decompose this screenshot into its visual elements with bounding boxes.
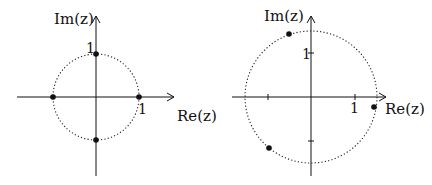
point: [266, 145, 272, 151]
real-axis-label: Re(z): [177, 107, 217, 125]
imag-axis-label: Im(z): [264, 7, 304, 25]
point: [371, 104, 377, 110]
imag-tick-label: 1: [86, 40, 95, 56]
imag-axis-label: Im(z): [54, 10, 94, 28]
right-plot: Im(z) Re(z) 1 1: [232, 7, 425, 176]
complex-plane-diagrams: Im(z) Re(z) 1 1 Im(z) Re(z) 1 1: [0, 0, 432, 185]
point: [136, 94, 142, 100]
imag-tick-label: 1: [302, 46, 311, 62]
left-plot: Im(z) Re(z) 1 1: [17, 10, 217, 176]
real-tick-label: 1: [138, 101, 147, 117]
point: [93, 137, 99, 143]
point: [286, 31, 292, 37]
real-tick-label: 1: [350, 100, 359, 116]
real-axis-label: Re(z): [385, 100, 425, 118]
point: [50, 94, 56, 100]
diagram-canvas: Im(z) Re(z) 1 1 Im(z) Re(z) 1 1: [0, 0, 432, 185]
